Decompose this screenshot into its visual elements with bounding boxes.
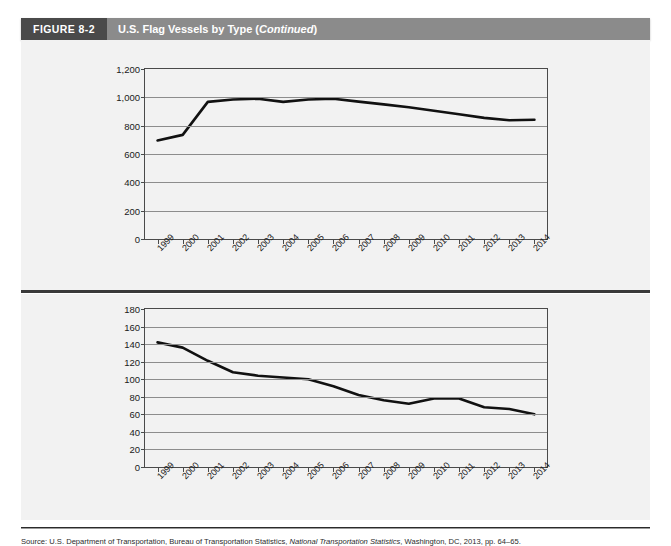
gridline	[145, 182, 547, 183]
source-suffix: , Washington, DC, 2013, pp. 64–65.	[400, 537, 520, 546]
y-axis-tick	[141, 397, 145, 398]
figure-caption: U.S. Flag Vessels by Type (Continued)	[107, 18, 650, 40]
gridline	[145, 97, 547, 98]
figure-number-label: FIGURE 8-2	[21, 18, 107, 40]
y-axis-label: 140	[100, 339, 140, 350]
gridline	[145, 432, 547, 433]
figure-page: FIGURE 8-2 U.S. Flag Vessels by Type (Co…	[0, 0, 671, 546]
footer-divider	[21, 527, 650, 529]
y-axis-label: 160	[100, 321, 140, 332]
gridline	[145, 327, 547, 328]
y-axis-tick	[141, 97, 145, 98]
gridline	[145, 362, 547, 363]
y-axis-label: 0	[100, 234, 140, 245]
y-axis-label: 40	[100, 426, 140, 437]
gridline	[145, 344, 547, 345]
panel-divider	[21, 290, 650, 293]
y-axis-label: 60	[100, 409, 140, 420]
lower-line-chart: 0204060801001201401601801999200020012002…	[108, 308, 548, 516]
upper-series-polyline	[158, 99, 535, 141]
y-axis-tick	[141, 154, 145, 155]
y-axis-tick	[141, 69, 145, 70]
lower-plot-area: 0204060801001201401601801999200020012002…	[144, 308, 548, 468]
figure-caption-continued: Continued	[259, 23, 313, 35]
source-prefix: Source: U.S. Department of Transportatio…	[21, 537, 289, 546]
gridline	[145, 154, 547, 155]
gridline	[145, 397, 547, 398]
y-axis-label: 20	[100, 444, 140, 455]
y-axis-tick	[141, 309, 145, 310]
y-axis-tick	[141, 449, 145, 450]
y-axis-label: 100	[100, 374, 140, 385]
y-axis-tick	[141, 126, 145, 127]
source-publication-title: National Transportation Statistics	[289, 537, 400, 546]
gridline	[145, 126, 547, 127]
y-axis-label: 1,200	[100, 64, 140, 75]
figure-caption-paren: )	[313, 23, 317, 35]
y-axis-label: 1,000	[100, 92, 140, 103]
y-axis-tick	[141, 327, 145, 328]
gridline	[145, 211, 547, 212]
y-axis-label: 180	[100, 304, 140, 315]
y-axis-tick	[141, 467, 145, 468]
y-axis-label: 800	[100, 120, 140, 131]
figure-caption-text: U.S. Flag Vessels by Type (	[118, 23, 259, 35]
y-axis-label: 0	[100, 462, 140, 473]
y-axis-tick	[141, 344, 145, 345]
y-axis-tick	[141, 414, 145, 415]
y-axis-label: 120	[100, 356, 140, 367]
gridline	[145, 449, 547, 450]
gridline	[145, 379, 547, 380]
y-axis-tick	[141, 432, 145, 433]
lower-series-line	[145, 309, 547, 467]
y-axis-tick	[141, 379, 145, 380]
gridline	[145, 414, 547, 415]
figure-header-bar: FIGURE 8-2 U.S. Flag Vessels by Type (Co…	[21, 18, 650, 40]
upper-line-chart: 02004006008001,0001,20019992000200120022…	[108, 68, 548, 288]
y-axis-label: 400	[100, 177, 140, 188]
y-axis-tick	[141, 211, 145, 212]
y-axis-tick	[141, 362, 145, 363]
y-axis-label: 80	[100, 391, 140, 402]
y-axis-tick	[141, 182, 145, 183]
source-note: Source: U.S. Department of Transportatio…	[21, 537, 661, 546]
y-axis-label: 600	[100, 149, 140, 160]
y-axis-tick	[141, 239, 145, 240]
y-axis-label: 200	[100, 205, 140, 216]
upper-plot-area: 02004006008001,0001,20019992000200120022…	[144, 68, 548, 240]
